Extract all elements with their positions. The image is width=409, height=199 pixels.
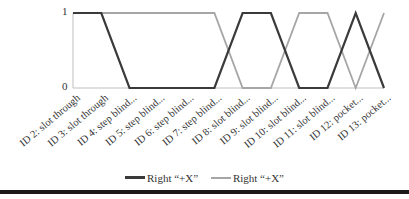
y-tick-1: 1 bbox=[62, 5, 68, 17]
page-divider bbox=[0, 190, 409, 194]
chart-legend: Right “+X” Right “+X” bbox=[0, 169, 409, 184]
legend-light-line-icon bbox=[211, 177, 231, 179]
series-dark-line bbox=[73, 13, 384, 88]
legend-label: Right “+X” bbox=[147, 172, 198, 184]
legend-label: Right “+X” bbox=[233, 172, 284, 184]
legend-item-light: Right “+X” bbox=[211, 172, 284, 184]
plot-series bbox=[73, 13, 384, 88]
legend-dark-line-icon bbox=[125, 176, 145, 179]
y-tick-0: 0 bbox=[62, 80, 68, 92]
legend-item-dark: Right “+X” bbox=[125, 172, 198, 184]
